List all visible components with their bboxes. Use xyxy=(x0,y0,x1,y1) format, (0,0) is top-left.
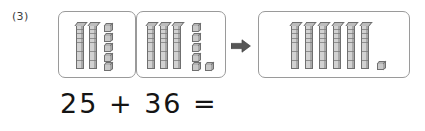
ten-rod xyxy=(305,24,313,69)
unit-cube xyxy=(104,25,111,32)
ten-rod xyxy=(147,24,155,69)
sum-panel xyxy=(258,11,410,78)
ten-rod xyxy=(76,24,84,69)
ten-rod xyxy=(160,24,168,69)
ten-rod xyxy=(361,24,369,69)
ten-rod xyxy=(173,24,181,69)
problem-number: (3) xyxy=(12,10,28,23)
ten-rod xyxy=(333,24,341,69)
unit-cube xyxy=(104,64,111,71)
unit-cube xyxy=(192,55,199,62)
unit-cube xyxy=(377,63,384,70)
second-addend-blocks xyxy=(137,12,225,77)
arrow-right-icon xyxy=(231,38,251,52)
second-addend-panel xyxy=(136,11,226,78)
unit-cube xyxy=(192,25,199,32)
ten-rod xyxy=(89,24,97,69)
unit-cube xyxy=(192,45,199,52)
sum-blocks xyxy=(259,12,409,77)
ten-rod xyxy=(347,24,355,69)
unit-cube xyxy=(192,64,199,71)
unit-cube xyxy=(205,64,212,71)
unit-cube xyxy=(104,45,111,52)
first-addend-blocks xyxy=(59,12,135,77)
unit-cube xyxy=(192,35,199,42)
ten-rod xyxy=(291,24,299,69)
equation-text: 25 + 36 = xyxy=(60,88,218,119)
unit-cube xyxy=(104,55,111,62)
unit-cube xyxy=(104,35,111,42)
first-addend-panel xyxy=(58,11,136,78)
ten-rod xyxy=(319,24,327,69)
